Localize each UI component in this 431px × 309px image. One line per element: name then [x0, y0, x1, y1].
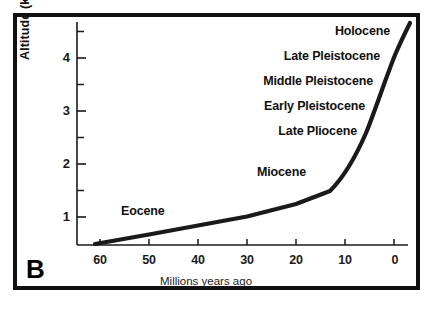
annotation-middle-pleistocene: Middle Pleistocene [195, 74, 373, 88]
x-tick-label-0: 0 [381, 253, 409, 267]
annotation-eocene: Eocene [121, 204, 165, 218]
figure-panel-b: 4 3 2 1 60 50 40 30 20 10 0 Altitude (km… [0, 0, 431, 309]
x-tick-label-30: 30 [233, 253, 261, 267]
y-tick-label-4: 4 [50, 50, 70, 65]
x-tick-label-20: 20 [282, 253, 310, 267]
annotation-late-pliocene: Late Pliocene [185, 124, 357, 138]
x-axis-title: Millions years ago [160, 275, 252, 287]
y-tick-label-2: 2 [50, 156, 70, 171]
annotation-miocene: Miocene [257, 165, 306, 179]
x-tick-label-50: 50 [135, 253, 163, 267]
annotation-early-pleistocene: Early Pleistocene [190, 99, 365, 113]
y-tick-label-1: 1 [50, 209, 70, 224]
y-tick-label-3: 3 [50, 103, 70, 118]
y-axis-title: Altitude (km) [18, 0, 32, 60]
panel-label: B [26, 256, 45, 282]
x-tick-label-10: 10 [331, 253, 359, 267]
x-tick-label-40: 40 [184, 253, 212, 267]
annotation-late-pleistocene: Late Pleistocene [205, 49, 380, 63]
x-tick-label-60: 60 [86, 253, 114, 267]
annotation-holocene: Holocene [215, 24, 390, 38]
